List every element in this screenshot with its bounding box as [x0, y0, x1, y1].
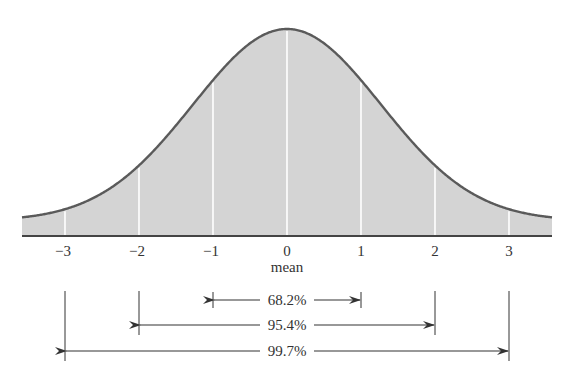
empirical-rule-brackets: 68.2%95.4%99.7%	[65, 291, 509, 361]
x-tick-label: −1	[203, 243, 219, 259]
interval-bracket: 68.2%	[213, 292, 361, 308]
x-tick-label: −2	[129, 243, 145, 259]
interval-percent-label: 68.2%	[268, 292, 307, 308]
x-tick-labels: −3−2−10123	[55, 243, 513, 259]
mean-label: mean	[271, 259, 304, 275]
x-tick-label: 2	[431, 243, 439, 259]
normal-distribution-diagram: −3−2−10123 mean 68.2%95.4%99.7%	[0, 0, 578, 376]
x-tick-label: −3	[55, 243, 71, 259]
x-tick-label: 1	[357, 243, 365, 259]
interval-percent-label: 99.7%	[268, 343, 307, 359]
chart-svg: −3−2−10123 mean 68.2%95.4%99.7%	[0, 0, 578, 376]
x-tick-label: 3	[505, 243, 513, 259]
interval-percent-label: 95.4%	[268, 317, 307, 333]
x-tick-label: 0	[283, 243, 291, 259]
